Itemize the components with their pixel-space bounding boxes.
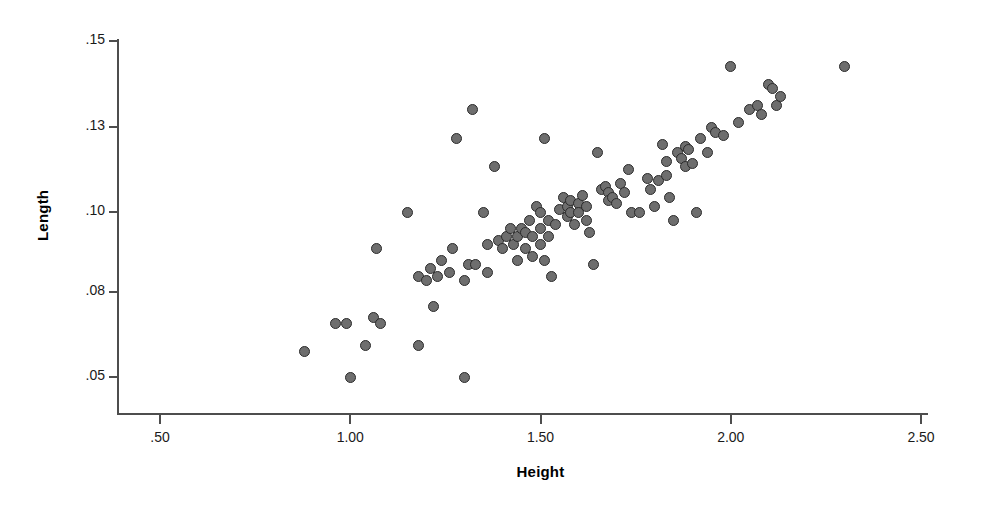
data-point [756, 109, 767, 120]
data-point [642, 173, 653, 184]
x-tick-mark [349, 415, 351, 424]
x-tick-mark [920, 415, 922, 424]
data-point [565, 207, 576, 218]
x-tick-label: .50 [115, 429, 205, 445]
data-point [680, 161, 691, 172]
data-point [535, 207, 546, 218]
data-point [489, 161, 500, 172]
data-point [615, 178, 626, 189]
data-point [345, 372, 356, 383]
data-point [360, 340, 371, 351]
data-point [375, 318, 386, 329]
y-tick-label: .05 [27, 367, 105, 383]
data-point [767, 83, 778, 94]
data-point [543, 215, 554, 226]
x-tick-label: 2.00 [686, 429, 776, 445]
data-point [657, 139, 668, 150]
data-point [718, 130, 729, 141]
data-point [687, 158, 698, 169]
data-point [493, 235, 504, 246]
data-point [653, 175, 664, 186]
x-tick-label: 1.50 [496, 429, 586, 445]
data-point [584, 227, 595, 238]
data-point [539, 255, 550, 266]
data-point [562, 201, 573, 212]
data-point [413, 340, 424, 351]
data-point [592, 147, 603, 158]
data-point [535, 223, 546, 234]
y-axis-line [117, 39, 119, 415]
data-point [691, 207, 702, 218]
data-point [649, 201, 660, 212]
data-point [668, 215, 679, 226]
data-point [623, 164, 634, 175]
data-point [508, 239, 519, 250]
y-tick-mark [109, 40, 118, 42]
data-point [577, 190, 588, 201]
data-point [459, 275, 470, 286]
data-point [505, 223, 516, 234]
data-point [619, 187, 630, 198]
data-point [565, 195, 576, 206]
data-point [554, 204, 565, 215]
data-point [771, 100, 782, 111]
data-point [676, 153, 687, 164]
data-point [710, 127, 721, 138]
data-point [645, 184, 656, 195]
data-point [535, 239, 546, 250]
data-point [341, 318, 352, 329]
data-point [428, 301, 439, 312]
data-point [531, 201, 542, 212]
data-point [371, 243, 382, 254]
data-point [512, 255, 523, 266]
data-point [607, 192, 618, 203]
data-point [581, 215, 592, 226]
data-point [516, 223, 527, 234]
y-tick-label: .15 [27, 31, 105, 47]
data-point [421, 275, 432, 286]
data-point [447, 243, 458, 254]
data-point [603, 187, 614, 198]
data-point [330, 318, 341, 329]
data-point [527, 251, 538, 262]
y-tick-label: .10 [27, 202, 105, 218]
data-point [569, 219, 580, 230]
data-point [520, 227, 531, 238]
data-point [706, 122, 717, 133]
data-point [467, 104, 478, 115]
data-point [451, 133, 462, 144]
x-tick-mark [159, 415, 161, 424]
data-point [573, 198, 584, 209]
y-tick-mark [109, 376, 118, 378]
data-point [520, 243, 531, 254]
x-axis-line [117, 413, 928, 415]
y-tick-mark [109, 126, 118, 128]
data-point [425, 263, 436, 274]
data-point [702, 147, 713, 158]
data-point [695, 133, 706, 144]
data-point [725, 61, 736, 72]
data-point [432, 271, 443, 282]
data-point [501, 231, 512, 242]
data-point [611, 198, 622, 209]
data-point [603, 195, 614, 206]
data-point [763, 79, 774, 90]
data-point [436, 255, 447, 266]
data-point [299, 346, 310, 357]
data-point [661, 170, 672, 181]
data-point [680, 141, 691, 152]
y-tick-mark [109, 291, 118, 293]
data-point [550, 219, 561, 230]
data-point [543, 231, 554, 242]
data-point [683, 144, 694, 155]
data-point [527, 231, 538, 242]
data-point [470, 259, 481, 270]
scatter-plot-figure: Length Height .05.08.10.13.15.501.001.50… [0, 0, 981, 515]
data-point [600, 181, 611, 192]
data-point [463, 259, 474, 270]
data-point [839, 61, 850, 72]
data-point [539, 133, 550, 144]
data-point [733, 117, 744, 128]
x-axis-title: Height [491, 463, 591, 480]
data-point [512, 231, 523, 242]
